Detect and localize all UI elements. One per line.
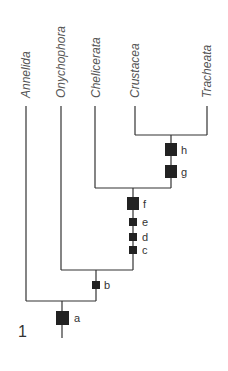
character-label-d: d [142, 231, 148, 243]
taxon-label-tracheata: Tracheata [200, 45, 214, 98]
character-label-c: c [142, 244, 148, 256]
character-label-b: b [104, 279, 110, 291]
taxon-label-crustacea: Crustacea [128, 43, 142, 98]
taxon-label-annelida: Annelida [19, 51, 33, 99]
cladogram: Annelida Onychophora Chelicerata Crustac… [0, 0, 228, 371]
character-label-e: e [142, 216, 148, 228]
character-label-h: h [181, 144, 187, 156]
character-label-a: a [74, 312, 81, 324]
character-marker-e [129, 218, 137, 226]
character-marker-b [92, 281, 100, 289]
taxon-label-chelicerata: Chelicerata [89, 37, 103, 98]
character-label-g: g [181, 166, 187, 178]
character-marker-g [165, 165, 177, 178]
character-label-f: f [143, 198, 147, 210]
character-marker-d [129, 233, 137, 241]
character-marker-c [129, 246, 137, 254]
character-marker-h [165, 143, 177, 156]
figure-number: 1 [18, 323, 27, 340]
character-marker-f [127, 197, 139, 210]
character-marker-a [56, 311, 69, 325]
taxon-label-onychophora: Onychophora [54, 26, 68, 98]
